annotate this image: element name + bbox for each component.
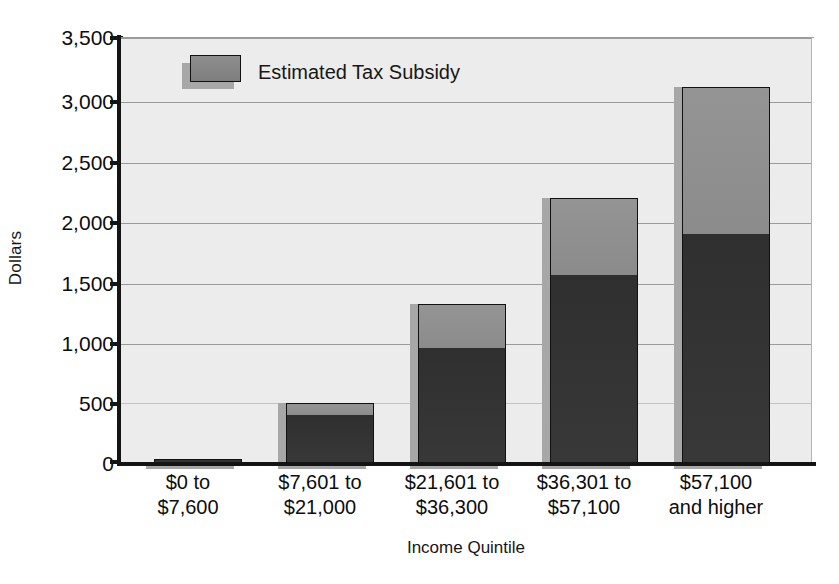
x-tick-label-quintile-4: $36,301 to $57,100 xyxy=(524,470,644,520)
bar-segment-subsidy-quintile-4 xyxy=(551,199,637,277)
x-tick-label-quintile-5-line-1: $57,100 xyxy=(656,470,776,495)
bar-group-quintile-4[interactable] xyxy=(542,38,640,463)
x-axis-line xyxy=(117,462,816,466)
y-tick-label-1000: 1,000 xyxy=(22,333,114,354)
plot-border-right xyxy=(811,38,812,463)
plot-border-top xyxy=(120,37,814,38)
bar-stack-quintile-2[interactable] xyxy=(286,403,374,463)
bar-group-quintile-3[interactable] xyxy=(410,38,508,463)
y-tick-label-2000: 2,000 xyxy=(22,212,114,233)
x-tick-label-quintile-2-line-1: $7,601 to xyxy=(260,470,380,495)
legend-label-estimated-tax-subsidy: Estimated Tax Subsidy xyxy=(258,61,460,84)
x-tick-label-quintile-2-line-2: $21,000 xyxy=(260,495,380,520)
y-axis-tick-labels: 3,500 3,000 2,500 2,000 1,500 1,000 500 … xyxy=(22,0,114,584)
bar-stack-quintile-5[interactable] xyxy=(682,87,770,463)
x-tick-label-quintile-1: $0 to $7,600 xyxy=(128,470,248,520)
x-axis-tick-labels: $0 to $7,600 $7,601 to $21,000 $21,601 t… xyxy=(120,470,812,528)
x-tick-label-quintile-3: $21,601 to $36,300 xyxy=(392,470,512,520)
x-tick-label-quintile-5: $57,100 and higher xyxy=(656,470,776,520)
x-tick-label-quintile-3-line-2: $36,300 xyxy=(392,495,512,520)
bar-segment-base-quintile-5 xyxy=(683,234,769,462)
bar-segment-base-quintile-4 xyxy=(551,275,637,462)
bar-segment-subsidy-quintile-3 xyxy=(419,305,505,351)
x-tick-label-quintile-3-line-1: $21,601 to xyxy=(392,470,512,495)
x-tick-label-quintile-2: $7,601 to $21,000 xyxy=(260,470,380,520)
x-tick-label-quintile-4-line-1: $36,301 to xyxy=(524,470,644,495)
x-tick-label-quintile-1-line-1: $0 to xyxy=(128,470,248,495)
x-tick-label-quintile-5-line-2: and higher xyxy=(656,495,776,520)
bar-group-quintile-1[interactable] xyxy=(146,38,244,463)
y-tick-label-2500: 2,500 xyxy=(22,152,114,173)
y-tick-label-1500: 1,500 xyxy=(22,273,114,294)
x-tick-label-quintile-1-line-2: $7,600 xyxy=(128,495,248,520)
chart-legend: Estimated Tax Subsidy xyxy=(182,55,460,89)
legend-swatch-wrapper xyxy=(182,55,244,89)
bar-shadow-quintile-1 xyxy=(146,466,234,469)
y-tick-label-500: 500 xyxy=(22,393,114,414)
y-tick-label-3500: 3,500 xyxy=(22,27,114,48)
bar-segment-base-quintile-2 xyxy=(287,415,373,462)
bar-stack-quintile-4[interactable] xyxy=(550,198,638,463)
plot-area: Estimated Tax Subsidy xyxy=(120,38,812,463)
bar-group-quintile-2[interactable] xyxy=(278,38,376,463)
y-tick-label-0: 0 xyxy=(22,453,114,474)
x-axis-title: Income Quintile xyxy=(120,538,812,558)
x-tick-label-quintile-4-line-2: $57,100 xyxy=(524,495,644,520)
bar-segment-base-quintile-3 xyxy=(419,348,505,462)
bar-segment-subsidy-quintile-5 xyxy=(683,88,769,236)
y-tick-label-3000: 3,000 xyxy=(22,91,114,112)
bar-chart-figure: Dollars 3,500 3,000 2,500 2,000 1,500 1,… xyxy=(0,0,839,584)
bar-stack-quintile-3[interactable] xyxy=(418,304,506,463)
legend-swatch-estimated-tax-subsidy xyxy=(190,55,241,82)
y-axis-line xyxy=(117,35,121,466)
bar-group-quintile-5[interactable] xyxy=(674,38,772,463)
